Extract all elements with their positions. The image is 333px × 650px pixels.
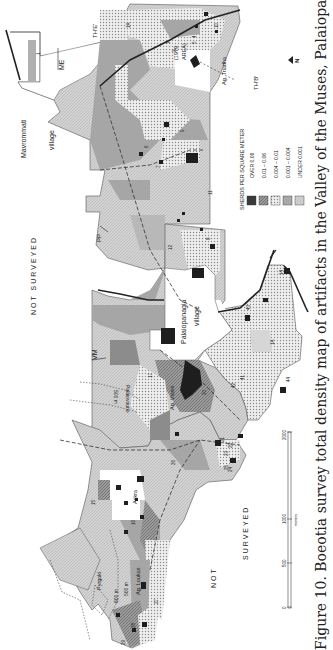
contour-600: 600 m: [113, 589, 119, 603]
svg-text:27: 27: [154, 598, 159, 604]
svg-text:43: 43: [246, 304, 251, 310]
not-surveyed-bottom-1: NOT: [210, 567, 217, 588]
svg-text:17: 17: [148, 372, 153, 378]
legend-title: SHERDS PER SQUARE METER: [239, 129, 245, 210]
legend-item-0-004-0-01: 0.004 – 0.01: [271, 150, 280, 205]
svg-text:0: 0: [282, 606, 287, 609]
density-map: ME TH'E' TH'B' PP VM Mavrommati village …: [0, 0, 333, 650]
svg-text:14: 14: [279, 269, 284, 275]
contour-500-lower: 500 m: [123, 582, 129, 596]
figure-caption: Figure 10. Boeotia survey total density …: [313, 0, 329, 650]
palaiopanagia-label-1: Palaiopanagia: [180, 300, 188, 344]
svg-text:26: 26: [171, 459, 176, 465]
palaiovouno-label: Palaiovouno: [125, 385, 131, 413]
svg-text:UNDER 0.001: UNDER 0.001: [297, 146, 303, 178]
legend-item-0-001-0-004: 0.001 – 0.004: [283, 147, 292, 205]
legend-item-over-0-06: OVER 0.06: [247, 152, 256, 205]
svg-text:20: 20: [202, 389, 207, 395]
svg-text:23: 23: [224, 450, 229, 456]
svg-text:1000: 1000: [282, 513, 287, 524]
askra-label: Askra: [132, 489, 138, 504]
svg-text:10: 10: [214, 22, 219, 28]
mavrommati-label-1: Mavrommati: [20, 119, 27, 158]
svg-text:28: 28: [131, 622, 136, 628]
palaiopanagia-label-2: village: [193, 306, 201, 326]
contour-500-upper: 500 m: [113, 390, 119, 404]
north-arrow-icon: N: [288, 56, 300, 64]
svg-text:16: 16: [131, 519, 136, 525]
svg-text:N: N: [294, 59, 300, 63]
svg-text:21: 21: [220, 436, 225, 442]
ag-triadha-label: Ag. Triadha: [221, 56, 227, 85]
svg-text:0.004 – 0.01: 0.004 – 0.01: [273, 150, 279, 178]
scale-bar: 0 500 1000 2000 meters: [282, 429, 298, 609]
svg-text:meters: meters: [293, 514, 298, 526]
svg-text:15: 15: [91, 499, 96, 505]
svg-text:29: 29: [121, 639, 126, 645]
svg-text:40: 40: [184, 364, 189, 370]
not-surveyed-bottom-2: SURVEYED: [242, 506, 249, 560]
pyrgaki-label: Pyrgaki: [96, 572, 102, 590]
ag-vlasis-label: Ag. Vlasis: [169, 385, 175, 410]
svg-text:25: 25: [224, 464, 229, 470]
svg-text:44: 44: [286, 376, 291, 382]
ag-loukas-label: Ag. Loukas: [135, 567, 141, 595]
svg-text:42: 42: [231, 382, 236, 388]
svg-text:13: 13: [264, 297, 269, 303]
mavrommati-label-2: village: [48, 130, 56, 150]
svg-text:1A: 1A: [270, 339, 275, 345]
label-th-e: TH'E': [92, 24, 98, 38]
svg-text:OVER 0.06: OVER 0.06: [249, 152, 255, 178]
label-me: ME: [58, 59, 65, 70]
label-th-b: TH'B': [253, 76, 259, 90]
svg-text:0.001 – 0.004: 0.001 – 0.004: [285, 147, 291, 178]
legend-item-under-0-001: UNDER 0.001: [295, 146, 304, 205]
svg-text:0.01 – 0.06: 0.01 – 0.06: [261, 153, 267, 178]
svg-text:11: 11: [208, 190, 213, 195]
svg-text:12: 12: [168, 244, 173, 250]
svg-text:22: 22: [228, 442, 233, 448]
legend: SHERDS PER SQUARE METER OVER 0.06 0.01 –…: [239, 129, 304, 210]
area-1979-label-2: AREA): [181, 43, 187, 60]
svg-text:2000: 2000: [282, 429, 287, 440]
not-surveyed-top: NOT SURVEYED: [30, 236, 37, 315]
label-vm: VM: [91, 349, 98, 360]
svg-text:500: 500: [282, 559, 287, 567]
svg-text:41: 41: [240, 374, 245, 380]
label-pp: PP: [96, 234, 102, 242]
svg-text:1A: 1A: [126, 22, 131, 28]
legend-item-0-01-0-06: 0.01 – 0.06: [259, 153, 268, 205]
